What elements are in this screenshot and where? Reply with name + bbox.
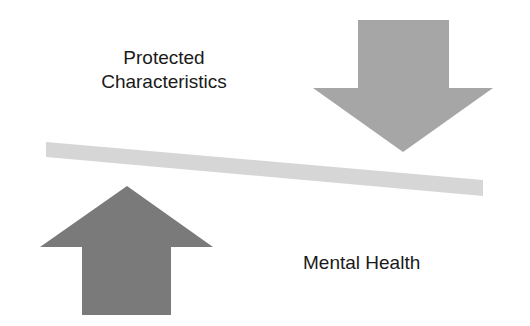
balance-beam: [46, 142, 483, 196]
mental-health-label: Mental Health: [303, 251, 420, 275]
protected-characteristics-label: Protected Characteristics: [64, 46, 264, 94]
up-arrow-icon: [40, 186, 213, 315]
down-arrow-icon: [313, 20, 493, 152]
label-line-protected: Protected: [64, 46, 264, 70]
label-line-characteristics: Characteristics: [64, 70, 264, 94]
